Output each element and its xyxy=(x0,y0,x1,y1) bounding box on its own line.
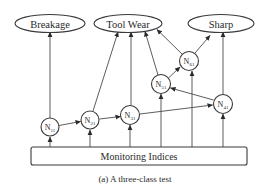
output-sharp-label: Sharp xyxy=(209,19,234,30)
node-n51: N51 xyxy=(152,75,171,94)
node-n61-sub: 61 xyxy=(189,62,195,67)
node-n41-sub: 41 xyxy=(223,105,229,110)
node-n11-sub: 11 xyxy=(50,128,55,133)
output-breakage: Breakage xyxy=(15,15,85,33)
monitoring-indices-label: Monitoring Indices xyxy=(101,151,178,162)
output-tool-wear-label: Tool Wear xyxy=(106,19,150,30)
node-n41: N41 xyxy=(214,95,233,114)
edge-n21-toolwear xyxy=(93,32,118,111)
output-tool-wear: Tool Wear xyxy=(94,15,162,33)
node-n11: N11 xyxy=(41,118,59,136)
figure-caption: (a) A three-class test xyxy=(98,174,172,184)
edges xyxy=(50,30,223,148)
edge-n61-toolwear xyxy=(157,30,182,55)
node-n61: N61 xyxy=(180,52,199,71)
monitoring-indices-box: Monitoring Indices xyxy=(31,147,247,165)
output-breakage-label: Breakage xyxy=(30,19,70,30)
output-sharp: Sharp xyxy=(188,15,254,33)
node-n21: N21 xyxy=(81,111,99,129)
edge-n61-sharp xyxy=(195,36,210,54)
edge-n51-toolwear xyxy=(145,32,158,76)
edge-n11-n21 xyxy=(59,122,81,126)
node-n31-sub: 31 xyxy=(130,116,136,121)
edge-n51-n61 xyxy=(169,67,181,78)
network-diagram: Breakage Tool Wear Sharp N11 N21 N31 N41… xyxy=(0,0,272,194)
node-n51-sub: 51 xyxy=(161,85,167,90)
edge-n31-n41 xyxy=(140,105,213,114)
node-n21-sub: 21 xyxy=(90,121,96,126)
node-n31: N31 xyxy=(121,106,140,125)
edge-n21-n31 xyxy=(100,117,121,120)
